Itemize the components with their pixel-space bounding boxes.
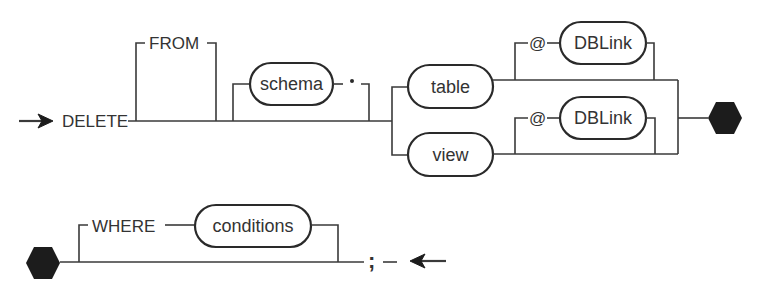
dot-separator (350, 79, 354, 83)
delete-syntax-diagram: DELETE FROM schema table view @ (0, 0, 766, 299)
semicolon-terminator: ; (368, 248, 375, 273)
at-sign: @ (529, 34, 546, 53)
optional-dblink-view: @ DBLink (515, 97, 655, 154)
optional-schema-branch: schema (233, 63, 369, 121)
continuation-hexagon-icon (708, 102, 742, 134)
optional-from-branch: FROM (136, 34, 216, 121)
optional-dblink-table: @ DBLink (515, 22, 654, 80)
conditions-label: conditions (212, 216, 293, 236)
schema-label: schema (260, 74, 324, 94)
arrow-right-icon (19, 114, 53, 128)
dblink-label: DBLink (574, 108, 633, 128)
dblink-label: DBLink (574, 33, 633, 53)
keyword-delete: DELETE (62, 112, 128, 131)
target-choice: table view (392, 65, 708, 176)
arrow-left-icon (410, 254, 446, 268)
keyword-where: WHERE (92, 217, 155, 236)
at-sign: @ (529, 109, 546, 128)
table-label: table (431, 77, 470, 97)
keyword-from: FROM (149, 34, 199, 53)
view-label: view (432, 145, 469, 165)
optional-where-branch: WHERE conditions (79, 205, 338, 262)
continuation-hexagon-icon (26, 247, 60, 279)
